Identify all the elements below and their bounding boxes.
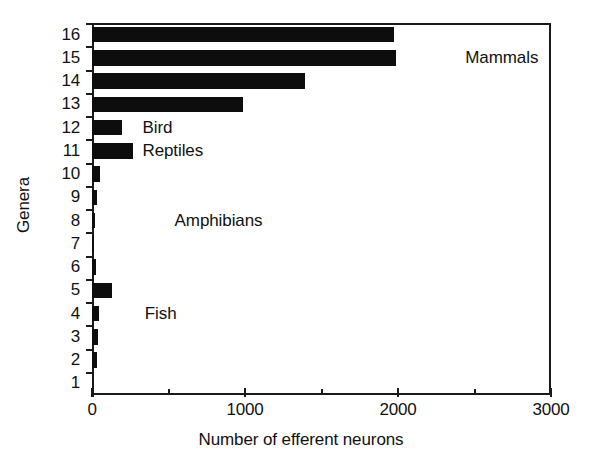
bar-genus-5	[92, 283, 112, 298]
x-tick-0	[91, 388, 93, 397]
annotation-reptiles: Reptiles	[142, 141, 203, 160]
bar-genus-4	[92, 306, 99, 321]
y-tick-1	[86, 372, 93, 374]
y-tick-label-14: 14	[48, 72, 80, 89]
y-tick-16	[86, 23, 93, 25]
bar-genus-11	[92, 143, 133, 158]
y-tick-8	[86, 209, 93, 211]
y-tick-label-16: 16	[48, 26, 80, 43]
y-tick-label-5: 5	[48, 281, 80, 298]
x-tick-minor-2500	[474, 389, 476, 395]
annotation-amphibians: Amphibians	[175, 211, 263, 230]
bar-genus-2	[92, 352, 97, 367]
bar-genus-7	[92, 236, 94, 251]
y-tick-label-9: 9	[48, 188, 80, 205]
annotation-bird: Bird	[142, 118, 172, 137]
bar-genus-6	[92, 259, 96, 274]
y-tick-7	[86, 232, 93, 234]
y-tick-13	[86, 93, 93, 95]
y-tick-12	[86, 116, 93, 118]
y-tick-3	[86, 325, 93, 327]
x-tick-label-0: 0	[88, 400, 97, 419]
y-tick-label-3: 3	[48, 328, 80, 345]
y-tick-label-2: 2	[48, 351, 80, 368]
bar-chart: 16151413121110987654321 0100020003000 Ma…	[0, 0, 602, 470]
y-tick-14	[86, 70, 93, 72]
y-tick-15	[86, 46, 93, 48]
y-tick-label-7: 7	[48, 235, 80, 252]
y-tick-label-1: 1	[48, 374, 80, 391]
bar-genus-3	[92, 329, 98, 344]
x-tick-minor-1500	[321, 389, 323, 395]
y-tick-label-4: 4	[48, 305, 80, 322]
y-tick-label-13: 13	[48, 95, 80, 112]
x-tick-3000	[550, 388, 552, 397]
bar-genus-16	[92, 27, 394, 42]
y-tick-9	[86, 186, 93, 188]
x-tick-label-3000: 3000	[533, 400, 570, 419]
x-axis-title: Number of efferent neurons	[0, 430, 602, 450]
bar-genus-9	[92, 190, 97, 205]
x-tick-minor-500	[168, 389, 170, 395]
y-axis-title: Genera	[14, 145, 34, 265]
x-tick-label-2000: 2000	[380, 400, 417, 419]
bar-genus-10	[92, 166, 100, 181]
y-tick-label-12: 12	[48, 119, 80, 136]
y-tick-label-11: 11	[48, 142, 80, 159]
y-tick-label-10: 10	[48, 165, 80, 182]
y-tick-11	[86, 139, 93, 141]
y-tick-label-15: 15	[48, 49, 80, 66]
bar-genus-15	[92, 50, 396, 65]
bar-genus-8	[92, 213, 95, 228]
y-tick-5	[86, 279, 93, 281]
x-tick-1000	[244, 388, 246, 397]
bar-genus-14	[92, 73, 305, 88]
x-tick-label-1000: 1000	[227, 400, 264, 419]
bar-genus-13	[92, 97, 243, 112]
y-tick-10	[86, 163, 93, 165]
y-tick-2	[86, 349, 93, 351]
y-tick-4	[86, 302, 93, 304]
bars-layer	[92, 23, 551, 395]
annotation-mammals: Mammals	[465, 48, 538, 67]
annotation-fish: Fish	[145, 304, 177, 323]
bar-genus-12	[92, 120, 122, 135]
y-tick-6	[86, 256, 93, 258]
y-tick-label-6: 6	[48, 258, 80, 275]
x-tick-2000	[397, 388, 399, 397]
y-tick-label-8: 8	[48, 212, 80, 229]
